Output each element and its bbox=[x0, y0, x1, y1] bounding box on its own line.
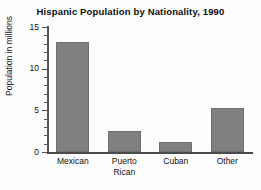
chart-figure: Hispanic Population by Nationality, 1990… bbox=[0, 0, 261, 190]
y-axis-label: Population in millions bbox=[4, 6, 18, 106]
bar bbox=[159, 142, 192, 152]
y-axis-tick-label: 15 bbox=[17, 22, 39, 32]
y-axis-tick-label: 5 bbox=[17, 105, 39, 115]
y-axis-major-tick bbox=[42, 152, 47, 153]
bar bbox=[108, 131, 141, 152]
x-axis-tick-label-line: Other bbox=[197, 156, 257, 167]
x-axis-line bbox=[47, 152, 253, 154]
plot-area bbox=[47, 27, 253, 152]
y-axis-tick-label: 0 bbox=[17, 147, 39, 157]
y-axis-tick-label: 10 bbox=[17, 63, 39, 73]
x-axis-tick-label: Other bbox=[197, 156, 257, 167]
chart-title: Hispanic Population by Nationality, 1990 bbox=[0, 6, 261, 17]
bar bbox=[56, 42, 89, 152]
x-axis-tick-label-line: Rican bbox=[94, 167, 154, 178]
bar bbox=[211, 108, 244, 152]
